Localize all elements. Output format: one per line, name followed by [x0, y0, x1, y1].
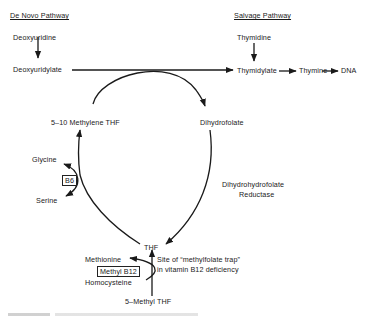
node-homocysteine: Homocysteine: [85, 279, 132, 286]
header-de-novo-pathway: De Novo Pathway: [10, 12, 69, 19]
node-serine: Serine: [36, 197, 57, 204]
node-5-methyl-thf: 5–Methyl THF: [125, 298, 171, 305]
node-deoxyuridylate: Deoxyuridylate: [13, 66, 62, 73]
node-deoxyuridine: Deoxyuridine: [13, 34, 56, 41]
trap-annotation-line1: Site of “methylfolate trap”: [157, 256, 240, 263]
trap-annotation-line2: in vitamin B12 deficiency: [157, 266, 239, 273]
arc-dihydrofolate-to-thf: [166, 130, 211, 244]
node-thymidine: Thymidine: [237, 34, 271, 41]
figure-caption-cutoff: [8, 313, 198, 316]
enzyme-label-line2: Reductase: [239, 191, 274, 198]
header-salvage-pathway: Salvage Pathway: [234, 12, 291, 19]
node-thf: THF: [144, 244, 158, 251]
arc-methylene-to-dihydrofolate: [93, 71, 205, 106]
node-glycine: Glycine: [32, 156, 57, 163]
cofactor-methyl-b12: Methyl B12: [97, 266, 140, 277]
arc-thf-to-methylene: [79, 130, 141, 244]
node-thymidylate: Thymidylate: [237, 67, 277, 74]
cofactor-b6: B6: [62, 175, 77, 186]
node-dna: DNA: [341, 67, 356, 74]
node-methylene-thf: 5–10 Methylene THF: [51, 119, 120, 126]
node-dihydrofolate: Dihydrofolate: [200, 119, 244, 126]
node-thymine: Thymine: [299, 67, 327, 74]
node-methionine: Methionine: [85, 256, 121, 263]
enzyme-label-line1: Dihydrohydrofolate: [222, 181, 284, 188]
